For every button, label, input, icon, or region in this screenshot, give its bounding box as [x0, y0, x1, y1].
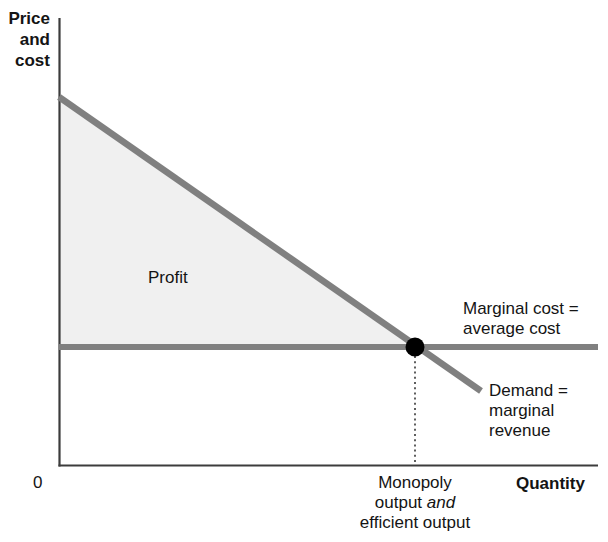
marginal-cost-label: Marginal cost =average cost	[463, 299, 579, 339]
marginal-cost-label-line1: Marginal cost =	[463, 299, 579, 318]
demand-label-line2: marginal	[489, 401, 554, 420]
demand-label-line3: revenue	[489, 421, 550, 440]
monopoly-output-label-line3: efficient output	[360, 513, 470, 532]
y-axis-title: Priceandcost	[0, 8, 50, 71]
y-axis-title-line3: cost	[15, 51, 50, 70]
monopoly-output-label-line1: Monopoly	[378, 473, 452, 492]
economics-monopoly-chart: Priceandcost Quantity 0 Profit Marginal …	[0, 0, 608, 542]
monopoly-output-label-line2-pre: output	[375, 493, 427, 512]
chart-canvas	[0, 0, 608, 542]
equilibrium-point-marker	[406, 338, 425, 357]
profit-region-label: Profit	[148, 268, 188, 288]
origin-label: 0	[33, 473, 42, 493]
marginal-cost-label-line2: average cost	[463, 319, 560, 338]
x-axis-title: Quantity	[516, 474, 585, 494]
demand-label: Demand =marginalrevenue	[489, 381, 568, 441]
demand-label-line1: Demand =	[489, 381, 568, 400]
y-axis-title-line1: Price	[8, 9, 50, 28]
monopoly-output-label-line2-italic: and	[427, 493, 455, 512]
monopoly-output-label: Monopolyoutput andefficient output	[315, 473, 515, 533]
y-axis-title-line2: and	[20, 30, 50, 49]
